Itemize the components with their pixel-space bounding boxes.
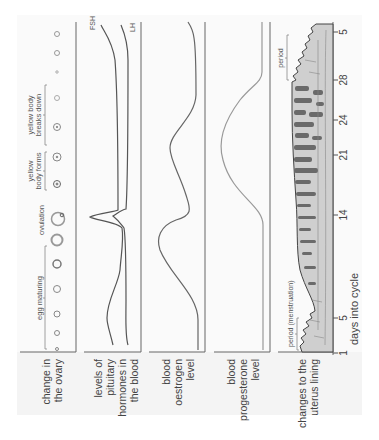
yellow-body-forms-label-2: body forms <box>34 152 43 189</box>
tick-day-14: 14 <box>338 209 349 221</box>
progesterone-label-3: level <box>249 359 261 381</box>
period-menstruation-label: period (menstruation) <box>287 280 295 347</box>
oestrogen-label-1: blood <box>160 359 172 385</box>
oestrogen-label-3: level <box>184 359 196 381</box>
tick-day-24: 24 <box>338 114 349 126</box>
hormones-label-2: pituitary <box>104 358 116 396</box>
tick-day-1: 1 <box>338 350 349 356</box>
progesterone-label-1: blood <box>225 359 237 385</box>
uterus-label-2: uterus lining <box>308 359 320 416</box>
lh-label: LH <box>129 23 136 32</box>
axis-label: days into cycle <box>348 273 360 345</box>
fsh-label: FSH <box>89 16 96 30</box>
ovary-label-1: change in <box>40 359 52 405</box>
hormones-label-3: hormones in <box>116 359 128 417</box>
oestrogen-label-2: oestrogen <box>172 359 184 406</box>
uterus-label-1: changes to the <box>296 359 308 428</box>
egg-maturing-label: egg maturing <box>35 276 44 320</box>
tick-day-5-next: 5 <box>338 29 349 35</box>
hormones-label-1: levels of <box>92 359 104 398</box>
ovulation-label: ovulation <box>37 205 46 235</box>
tick-day-21: 21 <box>338 149 349 161</box>
period-label: period <box>277 48 285 68</box>
hormones-label-4: the blood <box>128 359 140 402</box>
tick-day-28: 28 <box>338 74 349 86</box>
ovary-label-2: the ovary <box>52 358 64 402</box>
progesterone-label-2: progesterone <box>237 359 249 421</box>
menstrual-cycle-diagram: egg maturing ovulation yellow body forms… <box>0 0 379 440</box>
yellow-body-breaks-label-2: breaks down <box>34 94 43 137</box>
